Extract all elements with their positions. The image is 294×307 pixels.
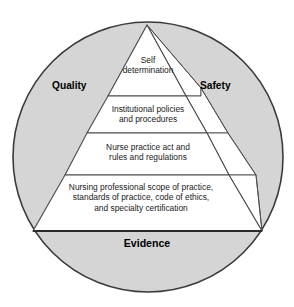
label-evidence: Evidence bbox=[0, 237, 294, 249]
tier-4-shape bbox=[33, 175, 262, 231]
tier-2-shape bbox=[87, 96, 207, 133]
tier-3-shape bbox=[65, 133, 229, 175]
label-quality: Quality bbox=[52, 80, 87, 91]
label-safety: Safety bbox=[200, 80, 231, 91]
diagram-canvas bbox=[0, 0, 294, 307]
pyramid-diagram: Self determination Institutional policie… bbox=[0, 0, 294, 307]
